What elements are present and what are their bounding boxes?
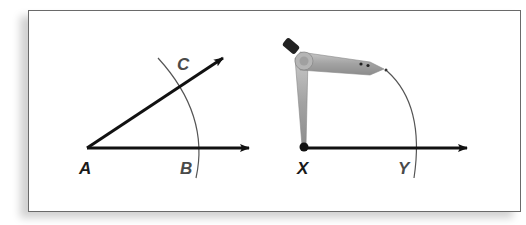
angle-abc — [87, 58, 249, 178]
construction-diagram — [0, 0, 526, 225]
ray-ac — [87, 58, 223, 148]
compass-icon — [282, 37, 388, 151]
label-c: C — [177, 56, 189, 73]
label-a: A — [79, 160, 91, 177]
arc-bc — [158, 58, 199, 178]
label-y: Y — [398, 160, 409, 177]
label-b: B — [180, 160, 192, 177]
compass-construction — [282, 37, 467, 178]
label-x: X — [297, 160, 308, 177]
